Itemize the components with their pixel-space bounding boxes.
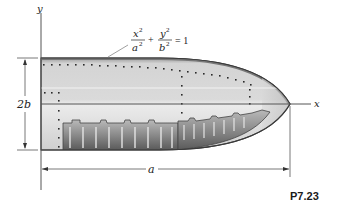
- eq-x-exp: 2: [139, 26, 143, 34]
- inner-panel-left: [63, 120, 178, 150]
- y-axis-label: y: [36, 3, 43, 14]
- dimension-2b-label: 2b: [16, 98, 31, 111]
- arrow-down-icon: [23, 143, 27, 149]
- arrow-left-icon: [42, 167, 48, 171]
- eq-b-exp: 2: [166, 40, 170, 48]
- eq-b: b: [159, 42, 165, 53]
- eq-y: y: [159, 28, 166, 39]
- ellipse-equation: x 2 a 2 + y 2 b 2 = 1: [108, 26, 188, 57]
- eq-a: a: [132, 42, 138, 53]
- problem-label: P7.23: [290, 190, 319, 202]
- x-axis-label: x: [314, 98, 320, 109]
- leader-line: [108, 45, 128, 57]
- eq-y-exp: 2: [166, 26, 170, 34]
- dimension-2b: 2b: [16, 58, 38, 150]
- ellipse-fuselage-diagram: y x 2b a x 2 a 2 + y 2 b 2: [0, 0, 338, 208]
- eq-equals-one: = 1: [175, 35, 188, 46]
- arrow-right-icon: [283, 167, 289, 171]
- arrow-up-icon: [23, 59, 27, 65]
- eq-a-exp: 2: [139, 40, 143, 48]
- dimension-a-label: a: [148, 163, 155, 176]
- eq-plus: +: [148, 34, 154, 45]
